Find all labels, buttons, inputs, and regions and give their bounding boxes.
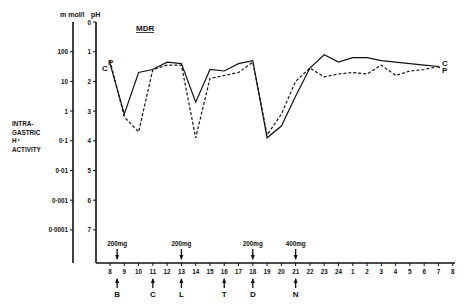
chart-title: MDR xyxy=(136,24,154,33)
ph-tick-label: 6 xyxy=(87,197,91,204)
time-tick-label: 2 xyxy=(365,268,369,275)
time-tick-label: 8 xyxy=(108,268,112,275)
time-tick-label: 16 xyxy=(221,268,229,275)
time-tick-label: 1 xyxy=(351,268,355,275)
dose-label: 200mg xyxy=(243,240,263,248)
mmol-tick-label: 10 xyxy=(61,78,69,85)
time-tick-label: 11 xyxy=(150,268,157,275)
y-axis-label: INTRA-GASTRICH⁺ACTIVITY xyxy=(12,120,41,153)
ph-tick-label: 2 xyxy=(87,78,91,85)
time-tick-label: 19 xyxy=(264,268,272,275)
y-label-line: INTRA- xyxy=(12,120,33,127)
mmol-axis-ticks: 1001010·10·010·0010·0001 xyxy=(48,48,73,233)
time-tick-label: 6 xyxy=(422,268,426,275)
time-axis-ticks: 8910111213141516171819202122232412345678 xyxy=(108,263,455,275)
series-labels: CPCP xyxy=(102,58,448,75)
time-tick-label: 8 xyxy=(451,268,455,275)
mmol-unit-label: m mol/l xyxy=(60,11,85,18)
time-tick-label: 3 xyxy=(380,268,384,275)
y-label-line: ACTIVITY xyxy=(12,146,41,153)
ph-tick-label: 4 xyxy=(87,137,91,144)
time-tick-label: 15 xyxy=(206,268,214,275)
acid-activity-chart: m mol/l pH MDR INTRA-GASTRICH⁺ACTIVITY 1… xyxy=(0,0,471,306)
meal-label: B xyxy=(114,290,120,299)
ph-axis-ticks: 01234567 xyxy=(87,19,96,234)
meal-label: T xyxy=(222,290,227,299)
ph-tick-label: 0 xyxy=(87,19,91,26)
ph-tick-label: 3 xyxy=(87,108,91,115)
data-series xyxy=(110,55,440,138)
dose-label: 400mg xyxy=(286,240,306,248)
ph-tick-label: 1 xyxy=(87,48,91,55)
time-tick-label: 12 xyxy=(164,268,172,275)
time-tick-label: 9 xyxy=(123,268,127,275)
start-label-p: P xyxy=(108,58,114,67)
ph-tick-label: 5 xyxy=(87,167,91,174)
meal-label: N xyxy=(293,290,299,299)
ph-tick-label: 7 xyxy=(87,226,91,233)
dose-label: 200mg xyxy=(171,240,191,248)
time-tick-label: 18 xyxy=(249,268,257,275)
time-tick-label: 4 xyxy=(394,268,398,275)
mmol-tick-label: 100 xyxy=(57,48,68,55)
mmol-tick-label: 0·01 xyxy=(55,167,68,174)
time-tick-label: 5 xyxy=(408,268,412,275)
mmol-tick-label: 0·1 xyxy=(59,137,69,144)
y-label-line: H⁺ xyxy=(12,137,20,144)
time-tick-label: 21 xyxy=(292,268,300,275)
y-label-line: GASTRIC xyxy=(12,129,41,136)
time-tick-label: 17 xyxy=(235,268,243,275)
series-c-line xyxy=(110,55,440,138)
end-label-p: P xyxy=(442,66,448,75)
time-tick-label: 7 xyxy=(437,268,441,275)
mmol-tick-label: 1 xyxy=(64,108,68,115)
time-tick-label: 14 xyxy=(192,268,200,275)
time-tick-label: 23 xyxy=(321,268,329,275)
meal-label: C xyxy=(150,290,156,299)
time-tick-label: 20 xyxy=(278,268,286,275)
mmol-tick-label: 0·001 xyxy=(52,197,69,204)
ph-unit-label: pH xyxy=(91,11,100,19)
mmol-tick-label: 0·0001 xyxy=(48,226,68,233)
meal-label: L xyxy=(179,290,184,299)
time-tick-label: 24 xyxy=(335,268,343,275)
meal-label: D xyxy=(250,290,256,299)
dose-label: 200mg xyxy=(107,240,127,248)
time-tick-label: 13 xyxy=(178,268,186,275)
time-tick-label: 22 xyxy=(306,268,314,275)
time-tick-label: 10 xyxy=(135,268,143,275)
series-p-line xyxy=(110,61,440,138)
